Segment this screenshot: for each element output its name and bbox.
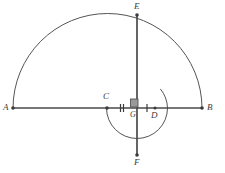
point-dot-A bbox=[11, 106, 15, 110]
point-label-E: E bbox=[134, 2, 140, 11]
point-dot-C bbox=[105, 106, 109, 110]
point-label-F: F bbox=[134, 158, 140, 167]
point-label-A: A bbox=[3, 103, 9, 112]
point-dot-E bbox=[135, 13, 139, 17]
point-label-B: B bbox=[207, 103, 213, 112]
figure-canvas bbox=[0, 0, 225, 173]
point-dot-B bbox=[200, 106, 204, 110]
point-label-C: C bbox=[103, 92, 109, 101]
right-angle-marker bbox=[131, 99, 139, 107]
point-label-G: G bbox=[130, 111, 136, 119]
point-label-D: D bbox=[151, 111, 158, 120]
geometry-figure: A B C D E F G bbox=[0, 0, 225, 173]
